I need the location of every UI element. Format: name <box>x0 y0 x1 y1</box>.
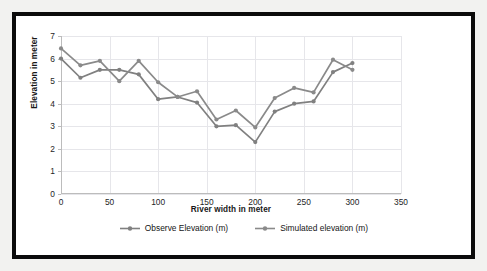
data-point-marker <box>273 96 277 100</box>
data-point-marker <box>292 86 296 90</box>
chart-legend: Observe Elevation (m)Simulated elevation… <box>16 223 471 233</box>
data-point-marker <box>234 108 238 112</box>
data-point-marker <box>214 124 218 128</box>
data-point-marker <box>156 97 160 101</box>
data-point-marker <box>292 102 296 106</box>
y-axis-title: Elevation in meter <box>30 8 39 138</box>
plot-area: 01234567 050100150200250300350 <box>61 36 401 194</box>
data-point-marker <box>331 58 335 62</box>
line-marker-icon <box>254 224 276 233</box>
data-point-marker <box>59 56 63 60</box>
data-point-marker <box>137 72 141 76</box>
x-tick-label: 250 <box>284 197 324 207</box>
series-plot <box>61 36 401 194</box>
data-point-marker <box>195 89 199 93</box>
data-point-marker <box>98 68 102 72</box>
y-tick-label: 3 <box>33 121 55 131</box>
data-point-marker <box>273 110 277 114</box>
x-tick-label: 200 <box>235 197 275 207</box>
line-marker-icon <box>119 224 141 233</box>
data-point-marker <box>78 63 82 67</box>
x-tick-label: 100 <box>138 197 178 207</box>
data-point-marker <box>78 76 82 80</box>
y-tick-label: 1 <box>33 166 55 176</box>
series-2 <box>59 46 355 129</box>
y-tick-label: 5 <box>33 76 55 86</box>
figure-root: Elevation in meter River width in meter … <box>0 0 487 271</box>
y-tick-label: 4 <box>33 99 55 109</box>
data-point-marker <box>214 117 218 121</box>
data-point-marker <box>311 99 315 103</box>
gridline-horizontal <box>61 194 401 195</box>
y-tick-label: 7 <box>33 31 55 41</box>
data-point-marker <box>175 95 179 99</box>
data-point-marker <box>59 46 63 50</box>
chart-canvas: Elevation in meter River width in meter … <box>16 16 471 255</box>
data-point-marker <box>137 59 141 63</box>
data-point-marker <box>331 70 335 74</box>
data-point-marker <box>350 68 354 72</box>
data-point-marker <box>253 125 257 129</box>
data-point-marker <box>98 59 102 63</box>
x-tick-label: 300 <box>332 197 372 207</box>
x-tick-label: 150 <box>187 197 227 207</box>
legend-label: Observe Elevation (m) <box>145 223 228 233</box>
data-point-marker <box>117 68 121 72</box>
legend-label: Simulated elevation (m) <box>280 223 368 233</box>
data-point-marker <box>311 90 315 94</box>
x-tick-label: 0 <box>41 197 81 207</box>
x-tick-label: 50 <box>90 197 130 207</box>
y-tick-label: 2 <box>33 144 55 154</box>
chart-frame-border: Elevation in meter River width in meter … <box>12 12 475 259</box>
data-point-marker <box>156 80 160 84</box>
series-1 <box>59 56 355 144</box>
legend-entry-1[interactable]: Observe Elevation (m) <box>119 223 228 233</box>
series-line <box>61 59 352 143</box>
y-tick-mark <box>58 194 61 195</box>
data-point-marker <box>253 140 257 144</box>
legend-entry-2[interactable]: Simulated elevation (m) <box>254 223 368 233</box>
data-point-marker <box>195 100 199 104</box>
data-point-marker <box>234 123 238 127</box>
data-point-marker <box>117 79 121 83</box>
y-tick-label: 6 <box>33 54 55 64</box>
data-point-marker <box>350 61 354 65</box>
x-tick-label: 350 <box>381 197 421 207</box>
gridline-vertical <box>401 36 402 194</box>
